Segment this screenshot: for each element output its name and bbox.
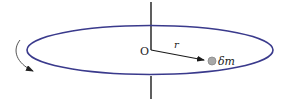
radius-label: r	[174, 39, 180, 50]
mass-element-label: δm	[218, 55, 235, 68]
mass-element-icon	[208, 57, 216, 65]
radius-arrow	[151, 50, 204, 60]
origin-label: O	[140, 45, 149, 58]
ring-outline	[27, 26, 273, 75]
rotating-disc-diagram: O r δm	[0, 0, 288, 102]
